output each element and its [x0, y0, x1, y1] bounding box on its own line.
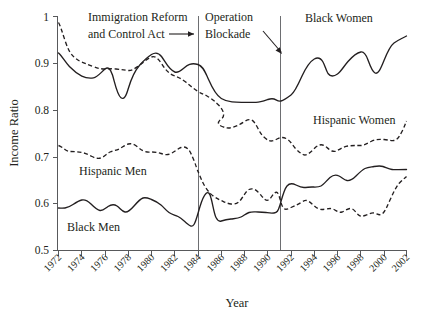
xtick-label: 1996 [320, 252, 342, 274]
ytick-label: 1 [43, 11, 49, 23]
annotation-arrow-head-right [188, 31, 194, 36]
xtick-label: 1978 [111, 252, 133, 274]
series-line-hispanic-women [59, 23, 407, 155]
annotation-immigration-reform-and-control-act: Immigration Reform and Control Act [88, 10, 194, 41]
annotation-line1: Immigration Reform [88, 10, 188, 24]
chart-axes: 0.5 0.6 0.7 0.8 0.9 1 1972 1974 1976 197… [35, 11, 412, 274]
xtick-label: 1998 [344, 252, 366, 274]
x-axis-tick-labels: 1972 1974 1976 1978 1980 1982 1984 1986 … [41, 252, 411, 274]
annotation-line1: Operation [205, 10, 253, 24]
ytick-label: 0.9 [35, 57, 50, 69]
xtick-label: 1982 [158, 252, 180, 274]
xtick-label: 1984 [181, 252, 203, 274]
series-label-hispanic-men: Hispanic Men [79, 164, 147, 178]
annotation-arrow-head-diagonal [276, 47, 283, 54]
ytick-label: 0.8 [35, 104, 50, 116]
xtick-label: 1976 [88, 252, 110, 274]
ytick-label: 0.6 [35, 197, 50, 209]
xtick-label: 1988 [227, 252, 249, 274]
annotation-operation-blockade: Operation Blockade [205, 10, 282, 54]
series-label-hispanic-women: Hispanic Women [313, 113, 395, 127]
y-axis-title: Income Ratio [7, 99, 21, 167]
xtick-label: 2002 [389, 252, 411, 274]
y-axis-tick-labels: 0.5 0.6 0.7 0.8 0.9 1 [35, 11, 50, 256]
xtick-label: 1994 [297, 252, 319, 274]
xtick-label: 2000 [367, 252, 389, 274]
x-axis-title: Year [225, 296, 249, 310]
series-label-black-women: Black Women [305, 11, 373, 25]
annotation-line2: and Control Act [88, 27, 165, 41]
event-lines [199, 16, 281, 250]
xtick-label: 1980 [134, 252, 156, 274]
ytick-label: 0.5 [35, 244, 50, 256]
series-labels: Black Women Hispanic Women Hispanic Men … [67, 11, 395, 234]
xtick-label: 1974 [65, 252, 87, 274]
ytick-label: 0.7 [35, 151, 50, 163]
xtick-label: 1986 [204, 252, 226, 274]
series-label-black-men: Black Men [67, 220, 120, 234]
y-axis-ticks [53, 17, 58, 251]
xtick-label: 1990 [251, 252, 273, 274]
xtick-label: 1992 [274, 252, 296, 274]
annotation-line2: Blockade [205, 27, 250, 41]
chart-figure: 0.5 0.6 0.7 0.8 0.9 1 1972 1974 1976 197… [0, 0, 421, 320]
income-ratio-line-chart: 0.5 0.6 0.7 0.8 0.9 1 1972 1974 1976 197… [0, 0, 421, 320]
